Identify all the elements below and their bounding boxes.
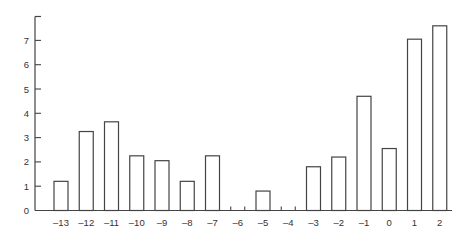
x-tick-label: –2 <box>333 217 344 228</box>
bar <box>433 26 447 211</box>
x-axis: –13–12–11–10–9–8–7–6–5–4–3–2–1012 <box>35 211 452 228</box>
x-tick-label: –5 <box>258 217 269 228</box>
bar <box>79 132 93 211</box>
bar <box>105 122 119 211</box>
bar <box>332 157 346 210</box>
y-tick-label: 2 <box>24 156 29 167</box>
bar <box>130 156 144 211</box>
x-tick-label: –1 <box>359 217 370 228</box>
y-tick-label: 4 <box>24 108 29 119</box>
x-tick-label: –10 <box>129 217 145 228</box>
x-tick-label: –6 <box>232 217 243 228</box>
x-tick-label: 0 <box>387 217 392 228</box>
bar-chart: 01234567 –13–12–11–10–9–8–7–6–5–4–3–2–10… <box>0 0 475 241</box>
y-axis: 01234567 <box>24 17 41 217</box>
bar <box>307 167 321 211</box>
bar <box>256 191 270 210</box>
x-tick-label: 1 <box>412 217 417 228</box>
y-tick-label: 0 <box>24 205 29 216</box>
x-tick-label: –11 <box>104 217 119 228</box>
bar <box>408 39 422 210</box>
bar <box>382 149 396 211</box>
x-tick-label: –4 <box>283 217 294 228</box>
y-tick-label: 6 <box>24 59 29 70</box>
bar <box>180 181 194 210</box>
x-tick-label: –3 <box>308 217 319 228</box>
bar <box>357 96 371 210</box>
bars <box>54 26 447 211</box>
y-tick-label: 1 <box>24 181 29 192</box>
y-tick-label: 3 <box>24 132 29 143</box>
x-tick-label: –12 <box>78 217 94 228</box>
bar <box>54 181 68 210</box>
x-tick-label: –13 <box>53 217 69 228</box>
bar <box>155 161 169 211</box>
bar <box>206 156 220 211</box>
x-tick-label: –8 <box>182 217 193 228</box>
y-tick-label: 5 <box>24 84 29 95</box>
y-tick-label: 7 <box>24 35 29 46</box>
x-tick-label: 2 <box>437 217 442 228</box>
x-tick-label: –7 <box>207 217 218 228</box>
x-tick-label: –9 <box>157 217 168 228</box>
